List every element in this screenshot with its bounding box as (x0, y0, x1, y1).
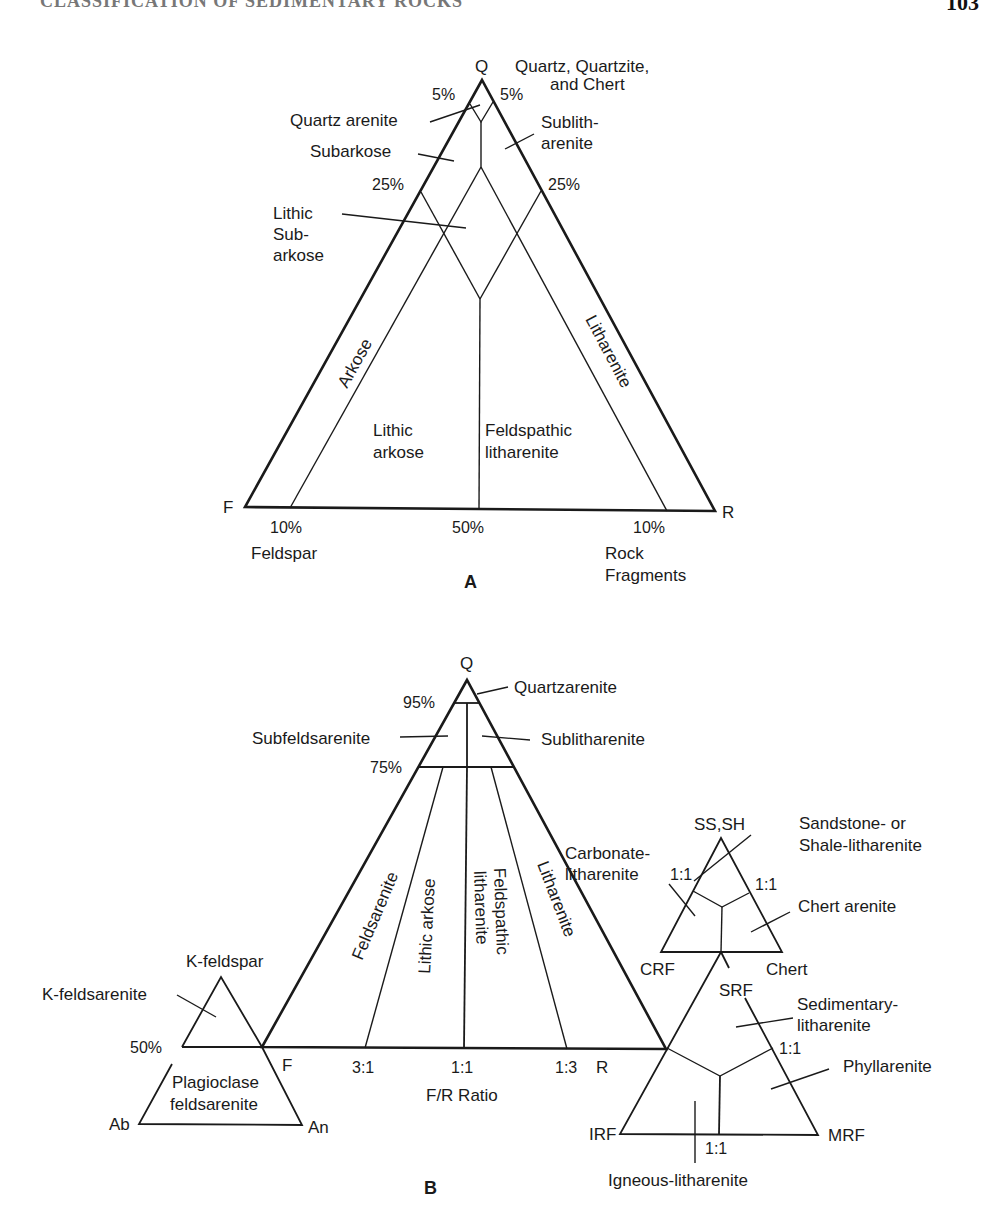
field-sedimentary-2: litharenite (797, 1016, 871, 1035)
pole-q-desc-2: and Chert (550, 75, 625, 94)
field-feldspathic-litharenite-1: Feldspathic (485, 421, 572, 440)
field-lithic-arkose-b: Lithic arkose (415, 878, 439, 974)
tick-feldspar-50: 50% (130, 1039, 162, 1056)
field-arkose: Arkose (334, 335, 376, 390)
tick-q75: 75% (370, 759, 402, 776)
diagram-b: Q Quartzarenite 95% Subfeldsarenite Subl… (252, 654, 666, 1198)
tick-q25-left: 25% (372, 176, 404, 193)
field-lithic-subarkose-1: Lithic (273, 204, 313, 223)
leader-phyllarenite (771, 1069, 829, 1089)
leader-subfeldsarenite (400, 736, 448, 737)
field-feldspathic-litharenite-b-2: litharenite (470, 870, 492, 944)
field-sublitharenite-2: arenite (541, 134, 593, 153)
corner-r-b: R (596, 1058, 608, 1077)
corner-an: An (308, 1118, 329, 1137)
field-lithic-arkose-1: Lithic (373, 421, 413, 440)
q25-left-line (421, 192, 480, 299)
panel-label-b: B (424, 1178, 437, 1198)
tick-q5-left: 5% (432, 86, 455, 103)
tick-base-right: 10% (633, 519, 665, 536)
rf-lower-divider (719, 1076, 720, 1134)
pole-ss-sh: SS,SH (694, 815, 745, 834)
tick-ssh-right: 1:1 (755, 876, 777, 893)
q5-boundary (470, 102, 493, 122)
axis-title-fr-ratio: F/R Ratio (426, 1086, 498, 1105)
tick-base-mid: 50% (452, 519, 484, 536)
sandstone-classification-figure: Q Quartz, Quartzite, and Chert 5% 5% 25%… (0, 0, 995, 1207)
field-plagioclase-2: feldsarenite (170, 1095, 258, 1114)
pole-srf: SRF (719, 981, 753, 1000)
leader-sublitharenite (482, 736, 530, 740)
corner-crf: CRF (640, 960, 675, 979)
field-feldspathic-litharenite-2: litharenite (485, 443, 559, 462)
leader-sedimentary (736, 1018, 793, 1027)
rf-apex-stub (721, 952, 729, 968)
leader-quartzarenite (477, 687, 508, 694)
tick-q25-right: 25% (548, 176, 580, 193)
field-plagioclase-1: Plagioclase (172, 1073, 259, 1092)
field-chert-arenite: Chert arenite (798, 897, 896, 916)
field-subarkose: Subarkose (310, 142, 391, 161)
field-k-feldsarenite: K-feldsarenite (42, 985, 147, 1004)
field-carbonate-2: litharenite (565, 865, 639, 884)
pole-r-desc-2: Fragments (605, 566, 686, 585)
field-quartzarenite: Quartzarenite (514, 678, 617, 697)
corner-mrf: MRF (828, 1126, 865, 1145)
corner-ab: Ab (109, 1115, 130, 1134)
field-feldsarenite: Feldsarenite (348, 869, 402, 963)
ssh-lower-divider (721, 907, 722, 952)
field-igneous: Igneous-litharenite (608, 1171, 748, 1190)
field-sublitharenite-b: Sublitharenite (541, 730, 645, 749)
field-subfeldsarenite: Subfeldsarenite (252, 729, 370, 748)
pole-q-b: Q (460, 654, 473, 673)
pole-q: Q (475, 57, 488, 76)
field-sublitharenite-1: Sublith- (541, 113, 599, 132)
tick-ssh-left: 1:1 (670, 866, 692, 883)
tick-q95: 95% (403, 694, 435, 711)
leader-quartz-arenite (430, 105, 480, 122)
field-feldspathic-litharenite-b-1: Feldspathic (490, 867, 512, 955)
panel-label-a: A (464, 572, 477, 592)
tick-ratio-1-3: 1:3 (555, 1059, 577, 1076)
ratio-1-1-line (464, 767, 467, 1048)
kfeldspar-upper (182, 977, 262, 1047)
corner-f: F (223, 498, 233, 517)
corner-irf: IRF (589, 1125, 616, 1144)
field-lithic-subarkose-2: Sub- (273, 225, 309, 244)
feldspar-subtriangle: K-feldspar K-feldsarenite 50% Plagioclas… (42, 952, 329, 1137)
rf-upper-divider (667, 1048, 773, 1076)
tick-base-left: 10% (270, 519, 302, 536)
field-sandstone-1: Sandstone- or (799, 814, 906, 833)
pole-q-desc-1: Quartz, Quartzite, (515, 57, 649, 76)
q25-right-line (480, 191, 541, 299)
field-quartz-arenite: Quartz arenite (290, 111, 398, 130)
field-sandstone-2: Shale-litharenite (799, 836, 922, 855)
tick-q5-right: 5% (500, 86, 523, 103)
leader-lithic-subarkose (342, 214, 466, 228)
leader-subarkose (418, 154, 454, 161)
field-sedimentary-1: Sedimentary- (797, 995, 898, 1014)
field-carbonate-1: Carbonate- (565, 844, 650, 863)
tick-ratio-1-1: 1:1 (451, 1059, 473, 1076)
field-lithic-arkose-2: arkose (373, 443, 424, 462)
fr-50-line (479, 299, 480, 509)
corner-chert: Chert (766, 960, 808, 979)
diagram-a: Q Quartz, Quartzite, and Chert 5% 5% 25%… (223, 57, 734, 592)
tick-rf-right: 1:1 (779, 1040, 801, 1057)
tick-rf-base: 1:1 (705, 1140, 727, 1157)
ssh-upper-divider (693, 891, 749, 907)
field-lithic-subarkose-3: arkose (273, 246, 324, 265)
corner-f-b: F (282, 1056, 292, 1075)
tick-ratio-3-1: 3:1 (352, 1059, 374, 1076)
pole-k-feldspar: K-feldspar (186, 952, 264, 971)
pole-f-desc: Feldspar (251, 544, 317, 563)
field-phyllarenite: Phyllarenite (843, 1057, 932, 1076)
corner-r: R (722, 503, 734, 522)
rock-fragment-subtriangle: SRF Sedimentary- litharenite 1:1 Phyllar… (589, 952, 932, 1190)
pole-r-desc-1: Rock (605, 544, 644, 563)
sedimentary-subtriangle: SS,SH Sandstone- or Shale-litharenite Ca… (565, 814, 922, 979)
